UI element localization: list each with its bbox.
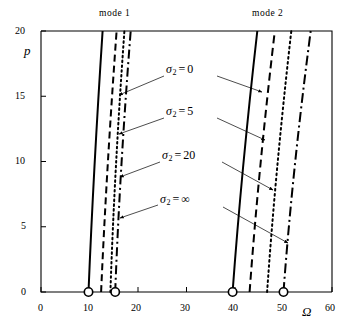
- group-label-mode2: mode 2: [252, 9, 283, 19]
- annotation-sigma-5: σ2=5: [166, 105, 193, 119]
- x-tick-label-20: 20: [131, 303, 141, 313]
- sigma-value: 5: [187, 104, 193, 118]
- series-mode1: [89, 31, 131, 292]
- sigma-value: 0: [187, 62, 193, 76]
- leader-sigma20-right: [222, 162, 273, 190]
- x-axis-label: Ω: [302, 305, 311, 318]
- y-axis-label: p: [24, 44, 31, 57]
- equals-symbol: =: [172, 148, 183, 162]
- y-tick-label-0: 0: [21, 287, 26, 297]
- leader-sigma5-left: [119, 118, 164, 134]
- marker-point: [228, 288, 236, 296]
- y-axis-ticks: [41, 31, 46, 292]
- marker-point: [111, 288, 119, 296]
- marker-point: [84, 288, 92, 296]
- equals-symbol: =: [170, 192, 181, 206]
- x-tick-label-30: 30: [180, 303, 190, 313]
- group-label-mode1: mode 1: [99, 9, 130, 19]
- series-mode2: [233, 31, 311, 292]
- y-tick-label-15: 15: [15, 91, 25, 101]
- equals-symbol: =: [176, 62, 187, 76]
- y-tick-label-20: 20: [15, 26, 25, 36]
- figure-container: mode 1 mode 2 p Ω 0 5 10 15 20 0 10 20 3…: [0, 0, 354, 329]
- marker-point: [279, 288, 287, 296]
- x-tick-label-10: 10: [83, 303, 93, 313]
- leader-sigma20-left: [120, 162, 160, 177]
- curve-mode1-sigma-0: [89, 31, 103, 292]
- sigma-value: 20: [183, 148, 195, 162]
- annotation-sigma-inf: σ2=∞: [160, 193, 190, 207]
- x-tick-label-0: 0: [38, 303, 43, 313]
- annotation-sigma-0: σ2=0: [166, 63, 193, 77]
- sigma-value: ∞: [181, 192, 190, 206]
- equals-symbol: =: [176, 104, 187, 118]
- annotation-sigma-20: σ2=20: [162, 149, 195, 163]
- leader-sigma5-right: [217, 118, 265, 140]
- curve-mode2-sigma-inf: [284, 31, 311, 292]
- leader-sigma0-right: [217, 76, 262, 92]
- curve-mode1-sigma-inf: [115, 31, 131, 292]
- x-tick-label-40: 40: [228, 303, 238, 313]
- x-tick-label-60: 60: [325, 303, 335, 313]
- y-tick-label-10: 10: [15, 156, 25, 166]
- curve-mode2-sigma-20: [267, 31, 291, 292]
- annotation-leaders: [119, 76, 288, 243]
- leader-sigmainf-left: [120, 205, 158, 218]
- plot-canvas: [0, 0, 354, 329]
- y-tick-label-5: 5: [21, 221, 26, 231]
- curve-mode1-sigma-5: [101, 31, 117, 292]
- x-tick-label-50: 50: [277, 303, 287, 313]
